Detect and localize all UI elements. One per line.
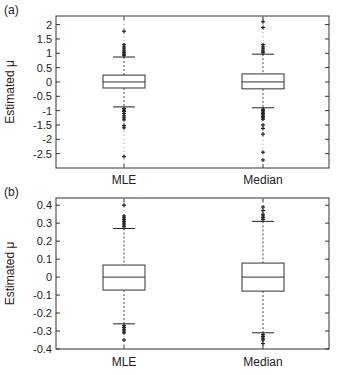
panel-label: (a) bbox=[4, 3, 19, 17]
box-median bbox=[242, 198, 284, 349]
box-median bbox=[242, 16, 284, 168]
y-tick-label: -1.5 bbox=[33, 119, 52, 131]
y-tick-label: 2 bbox=[46, 19, 52, 31]
plot-area bbox=[56, 16, 329, 168]
x-category-label: Median bbox=[243, 355, 282, 369]
panel-label: (b) bbox=[4, 185, 19, 199]
box-plot-figure: (a)21.510.50-0.5-1-1.5-2-2.5Estimated μM… bbox=[0, 0, 348, 375]
x-category-label: MLE bbox=[112, 355, 137, 369]
y-axis-label: Estimated μ bbox=[3, 60, 17, 124]
y-tick-label: 0.5 bbox=[37, 62, 52, 74]
y-tick-label: -0.4 bbox=[33, 343, 52, 355]
y-tick-label: 0.4 bbox=[37, 199, 52, 211]
y-tick-label: 0 bbox=[46, 271, 52, 283]
panel-a: (a)21.510.50-0.5-1-1.5-2-2.5Estimated μM… bbox=[3, 3, 329, 187]
y-tick-label: -1 bbox=[42, 105, 52, 117]
y-tick-label: -2 bbox=[42, 133, 52, 145]
y-tick-label: 1.5 bbox=[37, 33, 52, 45]
y-tick-label: 0 bbox=[46, 76, 52, 88]
y-tick-label: 0.2 bbox=[37, 235, 52, 247]
box-mle bbox=[103, 198, 145, 349]
y-tick-label: -0.3 bbox=[33, 325, 52, 337]
y-tick-label: 0.3 bbox=[37, 217, 52, 229]
y-axis-label: Estimated μ bbox=[3, 242, 17, 306]
y-tick-label: -0.2 bbox=[33, 307, 52, 319]
box-mle bbox=[103, 16, 145, 168]
y-tick-label: 1 bbox=[46, 47, 52, 59]
y-tick-label: -2.5 bbox=[33, 148, 52, 160]
plot-area bbox=[56, 198, 329, 349]
y-tick-label: 0.1 bbox=[37, 253, 52, 265]
y-tick-label: -0.5 bbox=[33, 90, 52, 102]
panel-b: (b)0.40.30.20.10-0.1-0.2-0.3-0.4Estimate… bbox=[3, 185, 329, 369]
iqr-box bbox=[242, 74, 284, 89]
y-tick-label: -0.1 bbox=[33, 289, 52, 301]
x-category-label: Median bbox=[243, 173, 282, 187]
x-category-label: MLE bbox=[112, 173, 137, 187]
